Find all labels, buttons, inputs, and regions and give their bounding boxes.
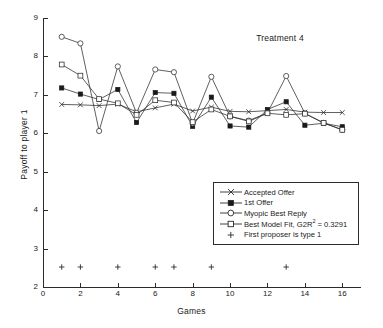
data-point bbox=[265, 111, 270, 116]
data-point bbox=[116, 87, 120, 91]
data-point bbox=[153, 90, 157, 94]
legend-item-first-proposer-type-1: First proposer is type 1 bbox=[218, 229, 353, 240]
chart-legend: Accepted Offer 1st Offer Myopic Best Rep… bbox=[213, 182, 359, 245]
plus-marker bbox=[115, 264, 120, 269]
data-point bbox=[284, 112, 289, 117]
data-point bbox=[172, 100, 177, 105]
data-point bbox=[321, 121, 326, 126]
data-point bbox=[284, 100, 288, 104]
data-point bbox=[97, 97, 102, 102]
plus-marker bbox=[209, 264, 214, 269]
line-filled-square-marker-icon bbox=[218, 198, 244, 208]
series-line bbox=[62, 88, 343, 127]
data-point bbox=[78, 92, 82, 96]
plus-marker bbox=[78, 264, 83, 269]
data-point bbox=[228, 124, 232, 128]
data-point bbox=[209, 107, 214, 112]
plus-marker bbox=[153, 264, 158, 269]
type-1-proposer-markers bbox=[59, 264, 289, 269]
legend-label-myopic-best-reply: Myopic Best Reply bbox=[244, 209, 307, 218]
data-point bbox=[78, 73, 83, 78]
data-point bbox=[59, 34, 64, 39]
series-myopic-best-reply bbox=[59, 34, 345, 133]
data-point bbox=[171, 70, 176, 75]
data-point bbox=[228, 114, 233, 119]
legend-item-myopic-best-reply: Myopic Best Reply bbox=[218, 208, 353, 219]
chart-figure: 23456789 0246810121416 Payoff to player … bbox=[0, 0, 383, 328]
data-point bbox=[284, 73, 289, 78]
legend-label-best-model-fit-prefix: Best Model Fit, G2R bbox=[244, 220, 312, 229]
plus-marker bbox=[171, 264, 176, 269]
legend-item-1st-offer: 1st Offer bbox=[218, 198, 353, 209]
data-point bbox=[134, 120, 138, 124]
plot-area bbox=[0, 0, 383, 328]
data-point bbox=[115, 101, 120, 106]
data-point bbox=[302, 111, 307, 116]
data-point bbox=[247, 125, 251, 129]
data-point bbox=[97, 128, 102, 133]
line-x-marker-icon bbox=[218, 187, 244, 197]
data-point bbox=[209, 74, 214, 79]
data-point bbox=[59, 62, 64, 67]
data-point bbox=[78, 41, 83, 46]
legend-label-1st-offer: 1st Offer bbox=[244, 198, 273, 207]
data-point bbox=[246, 119, 251, 124]
data-point bbox=[172, 91, 176, 95]
line-open-circle-marker-icon bbox=[218, 208, 244, 218]
legend-label-best-model-fit-suffix: = 0.3291 bbox=[315, 220, 347, 229]
data-point bbox=[134, 112, 139, 117]
data-point bbox=[60, 86, 64, 90]
data-point bbox=[190, 120, 195, 125]
legend-label-accepted-offer: Accepted Offer bbox=[244, 188, 295, 197]
data-point bbox=[303, 123, 307, 127]
plus-marker bbox=[59, 264, 64, 269]
plus-marker bbox=[283, 264, 288, 269]
legend-label-first-proposer-type-1: First proposer is type 1 bbox=[244, 230, 321, 239]
data-point bbox=[153, 98, 158, 103]
series-accepted-offer bbox=[59, 102, 344, 115]
line-open-square-marker-icon bbox=[218, 219, 244, 229]
legend-item-accepted-offer: Accepted Offer bbox=[218, 187, 353, 198]
legend-label-best-model-fit: Best Model Fit, G2R2 = 0.3291 bbox=[244, 220, 347, 229]
data-point bbox=[340, 127, 345, 132]
data-point bbox=[115, 64, 120, 69]
legend-item-best-model-fit: Best Model Fit, G2R2 = 0.3291 bbox=[218, 219, 353, 230]
data-point bbox=[209, 95, 213, 99]
plus-marker-icon bbox=[218, 230, 244, 240]
series-line bbox=[62, 37, 343, 131]
data-point bbox=[153, 67, 158, 72]
